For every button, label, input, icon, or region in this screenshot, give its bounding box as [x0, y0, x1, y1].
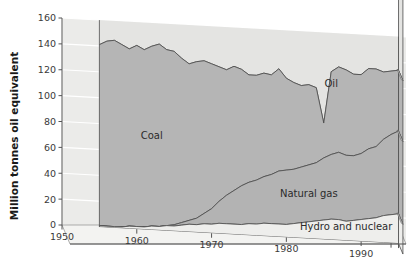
chart-container: 0204060801001201401601950196019701980199… [0, 0, 414, 272]
x-tick-label: 1990 [349, 248, 373, 259]
energy-consumption-area-chart: 0204060801001201401601950196019701980199… [0, 0, 414, 272]
end-cap-natural-gas [399, 131, 403, 224]
series-label-natural-gas: Natural gas [280, 188, 338, 199]
series-label-hydro-and-nuclear: Hydro and nuclear [300, 221, 393, 232]
series-label-oil: Oil [324, 78, 337, 89]
y-tick-label: 0 [50, 219, 56, 230]
y-tick-label: 60 [44, 142, 56, 153]
series-label-coal: Coal [141, 130, 163, 141]
y-tick-label: 80 [44, 116, 56, 127]
y-tick-label: 120 [38, 64, 56, 75]
y-tick-label: 20 [44, 194, 56, 205]
y-tick-label: 140 [38, 38, 56, 49]
x-tick-label: 1980 [274, 243, 298, 254]
x-tick-label: 1970 [199, 239, 223, 250]
x-tick-label: 1960 [125, 235, 149, 246]
y-tick-label: 100 [38, 90, 56, 101]
y-axis-title: Million tonnes oil equivalent [8, 52, 20, 220]
end-cap-oil [399, 0, 403, 81]
end-cap-coal [399, 70, 403, 141]
y-tick-label: 40 [44, 168, 56, 179]
y-tick-label: 160 [38, 12, 56, 23]
x-tick-label: 1950 [50, 231, 74, 242]
stacked-area-series [99, 0, 398, 244]
